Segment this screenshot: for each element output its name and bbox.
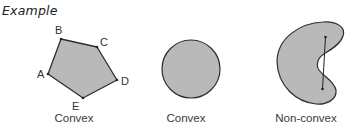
vertex-c-dot: [96, 46, 99, 49]
caption-pentagon: Convex: [55, 112, 94, 124]
vertex-e-dot: [82, 97, 85, 100]
pentagon-figure: A B C D E Convex: [37, 24, 129, 124]
kidney-shape: [277, 22, 344, 104]
vertex-d-dot: [116, 79, 119, 82]
vertex-b-dot: [60, 38, 63, 41]
convexity-diagram: A B C D E Convex Convex Non-convex: [0, 0, 354, 132]
chord-endpoint-top: [324, 36, 327, 39]
chord-endpoint-bottom: [321, 88, 324, 91]
vertex-label-d: D: [121, 75, 129, 87]
vertex-label-b: B: [55, 24, 62, 36]
vertex-a-dot: [47, 73, 50, 76]
vertex-label-c: C: [100, 36, 108, 48]
caption-circle: Convex: [167, 112, 206, 124]
vertex-label-e: E: [72, 100, 79, 112]
vertex-label-a: A: [37, 68, 45, 80]
circle-figure: Convex: [162, 40, 220, 124]
kidney-figure: Non-convex: [275, 22, 343, 124]
caption-kidney: Non-convex: [275, 112, 337, 124]
circle-shape: [162, 40, 220, 98]
